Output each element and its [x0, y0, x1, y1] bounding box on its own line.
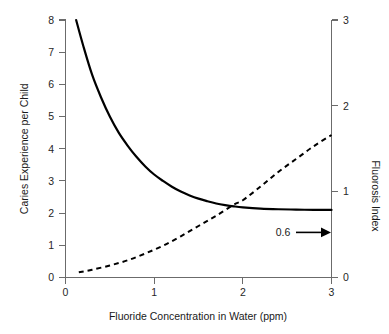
- y-tick-label-6: 6: [48, 78, 54, 90]
- x-axis: 0 1 2 3 Fluoride Concentration in Water …: [63, 278, 335, 323]
- y2-axis-title: Fluorosis Index: [370, 160, 382, 232]
- y-tick-label-0: 0: [48, 271, 54, 283]
- series-caries-experience: [76, 20, 331, 210]
- y-tick-label-5: 5: [48, 110, 54, 122]
- x-tick-label-1: 1: [151, 286, 157, 298]
- y2-tick-label-0: 0: [343, 271, 349, 283]
- y-axis-title: Caries Experience per Child: [18, 83, 30, 214]
- y-tick-label-2: 2: [48, 207, 54, 219]
- chart-container: 0 1 2 3 4 5 6 7 8 Caries Experience per …: [0, 0, 389, 334]
- x-tick-label-0: 0: [63, 286, 69, 298]
- chart-figure: 0 1 2 3 4 5 6 7 8 Caries Experience per …: [0, 0, 389, 334]
- y2-tick-label-3: 3: [343, 14, 349, 26]
- series-fluorosis-index: [79, 135, 332, 272]
- left-axis: 0 1 2 3 4 5 6 7 8 Caries Experience per …: [18, 14, 66, 284]
- y-tick-label-1: 1: [48, 239, 54, 251]
- y-tick-label-7: 7: [48, 46, 54, 58]
- right-axis: 0 1 2 3 Fluorosis Index: [332, 14, 383, 284]
- x-tick-label-2: 2: [240, 286, 246, 298]
- y-tick-label-8: 8: [48, 14, 54, 26]
- annotation-label: 0.6: [276, 226, 291, 238]
- y2-tick-label-1: 1: [343, 185, 349, 197]
- y-tick-label-3: 3: [48, 175, 54, 187]
- y2-tick-label-2: 2: [343, 100, 349, 112]
- x-tick-label-3: 3: [329, 286, 335, 298]
- y-tick-label-4: 4: [48, 143, 54, 155]
- plot-area: [76, 20, 331, 272]
- x-axis-title: Fluoride Concentration in Water (ppm): [109, 310, 287, 322]
- annotation-0.6: 0.6: [276, 226, 331, 238]
- right-arrow-icon: [296, 228, 331, 238]
